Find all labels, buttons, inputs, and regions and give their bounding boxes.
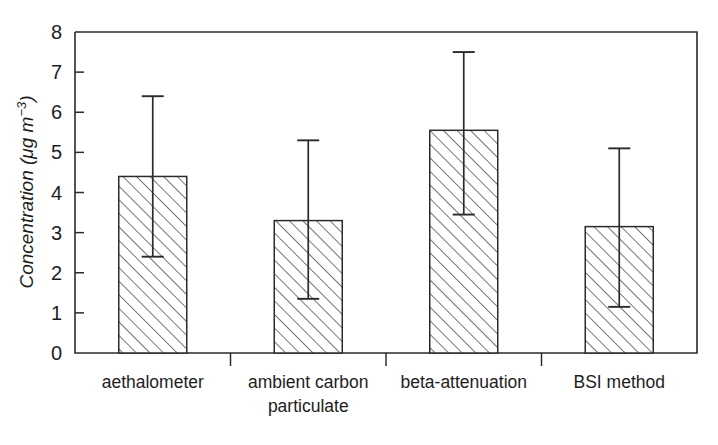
y-axis-title-text: Concentration (μg m (16, 117, 37, 289)
y-axis-tick-label: 5 (51, 141, 62, 163)
chart-canvas: 012345678 aethalometerambient carbonpart… (0, 0, 718, 445)
svg-text:Concentration (μg m−3): Concentration (μg m−3) (14, 95, 37, 288)
y-axis-tick-label: 4 (51, 182, 62, 204)
y-axis-tick-labels: 012345678 (51, 21, 62, 364)
y-axis-title-exponent: −3 (14, 101, 29, 117)
y-axis-title: Concentration (μg m−3) (14, 95, 37, 288)
x-axis-category-label: BSI method (574, 372, 665, 392)
y-axis-tick-label: 2 (51, 262, 62, 284)
y-axis-tick-label: 6 (51, 101, 62, 123)
y-axis-tick-label: 8 (51, 21, 62, 43)
bar-chart-figure: 012345678 aethalometerambient carbonpart… (0, 0, 718, 445)
y-axis-tick-label: 7 (51, 61, 62, 83)
y-axis-tick-label: 0 (51, 342, 62, 364)
x-axis-category-label: aethalometer (102, 372, 204, 392)
y-axis-title-close: ) (16, 95, 37, 103)
x-axis-category-label: beta-attenuation (401, 372, 528, 392)
y-axis-tick-label: 1 (51, 302, 62, 324)
y-axis-tick-label: 3 (51, 222, 62, 244)
